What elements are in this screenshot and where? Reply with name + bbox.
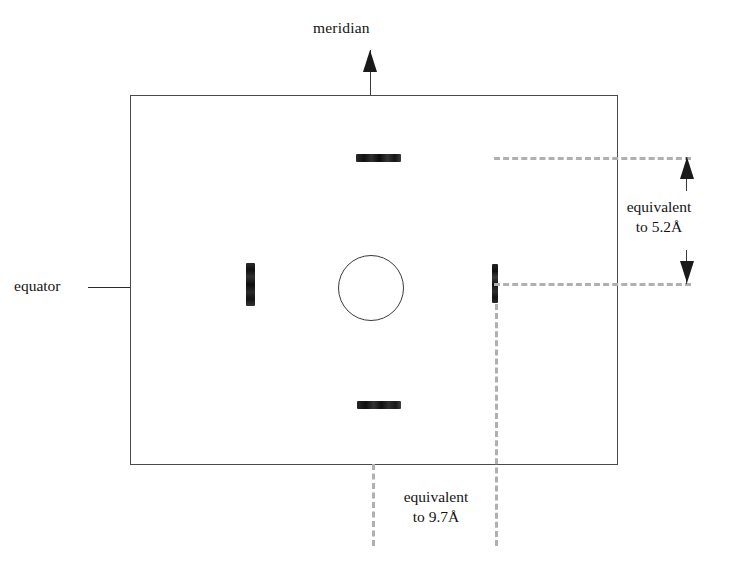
scale-arrow-head-down-icon xyxy=(680,261,694,283)
equatorial-spacing-line2: to 9.7Å xyxy=(380,507,492,527)
scale-arrow-head-up-icon xyxy=(680,157,694,179)
meridional-spacing-line1: equivalent xyxy=(627,198,692,215)
meridian-label: meridian xyxy=(313,18,370,38)
equatorial-spacing-annotation: equivalent to 9.7Å xyxy=(380,487,492,528)
meridional-spacing-line2: to 5.2Å xyxy=(605,217,713,237)
equatorial-spacing-line1: equivalent xyxy=(404,488,469,505)
meridian-arrow-head-icon xyxy=(363,50,377,72)
guide-dashed-line-upper xyxy=(494,157,691,160)
guide-dashed-line-right-vertical xyxy=(495,304,498,546)
equator-leader-line xyxy=(88,287,130,288)
equator-label: equator xyxy=(14,276,60,296)
meridional-spacing-annotation: equivalent to 5.2Å xyxy=(605,197,713,238)
meridional-top-reflection xyxy=(356,154,401,162)
meridional-bottom-reflection xyxy=(357,401,401,409)
equatorial-left-reflection xyxy=(246,263,255,306)
guide-dashed-line-lower xyxy=(494,283,691,286)
diffraction-diagram-canvas: meridian equator equivalent to 5.2Å equi… xyxy=(0,0,749,569)
guide-dashed-line-center-vertical xyxy=(372,464,375,546)
beam-stop-circle xyxy=(338,255,404,321)
